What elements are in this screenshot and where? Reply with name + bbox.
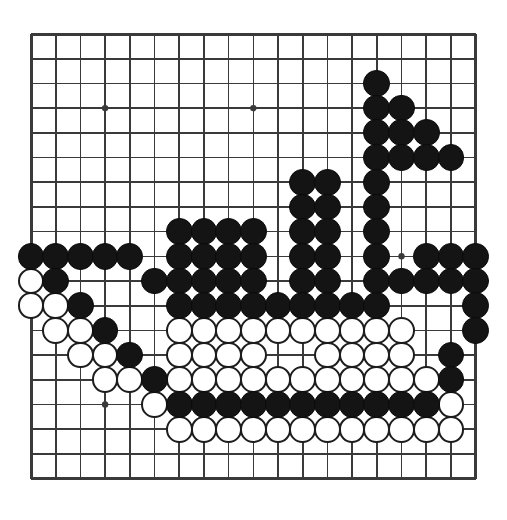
white-stone[interactable] [42, 292, 69, 319]
white-stone[interactable] [413, 416, 440, 443]
white-stone[interactable] [438, 391, 465, 418]
white-stone[interactable] [265, 416, 292, 443]
black-stone[interactable] [166, 218, 193, 245]
black-stone[interactable] [191, 243, 218, 270]
black-stone[interactable] [42, 268, 69, 295]
black-stone[interactable] [240, 243, 267, 270]
black-stone[interactable] [240, 292, 267, 319]
black-stone[interactable] [240, 218, 267, 245]
white-stone[interactable] [413, 366, 440, 393]
white-stone[interactable] [314, 366, 341, 393]
black-stone[interactable] [314, 292, 341, 319]
white-stone[interactable] [289, 416, 316, 443]
black-stone[interactable] [314, 194, 341, 221]
white-stone[interactable] [388, 342, 415, 369]
white-stone[interactable] [438, 416, 465, 443]
white-stone[interactable] [314, 317, 341, 344]
white-stone[interactable] [166, 342, 193, 369]
white-stone[interactable] [388, 366, 415, 393]
black-stone[interactable] [388, 268, 415, 295]
black-stone[interactable] [363, 194, 390, 221]
white-stone[interactable] [265, 317, 292, 344]
white-stone[interactable] [215, 342, 242, 369]
white-stone[interactable] [388, 317, 415, 344]
black-stone[interactable] [240, 391, 267, 418]
black-stone[interactable] [462, 268, 489, 295]
white-stone[interactable] [215, 317, 242, 344]
black-stone[interactable] [363, 169, 390, 196]
black-stone[interactable] [265, 292, 292, 319]
black-stone[interactable] [289, 243, 316, 270]
white-stone[interactable] [363, 416, 390, 443]
white-stone[interactable] [215, 416, 242, 443]
black-stone[interactable] [289, 194, 316, 221]
white-stone[interactable] [191, 416, 218, 443]
white-stone[interactable] [18, 292, 45, 319]
white-stone[interactable] [339, 317, 366, 344]
black-stone[interactable] [166, 292, 193, 319]
black-stone[interactable] [413, 391, 440, 418]
white-stone[interactable] [240, 416, 267, 443]
black-stone[interactable] [166, 268, 193, 295]
white-stone[interactable] [67, 342, 94, 369]
black-stone[interactable] [363, 243, 390, 270]
black-stone[interactable] [413, 268, 440, 295]
black-stone[interactable] [363, 144, 390, 171]
black-stone[interactable] [314, 243, 341, 270]
black-stone[interactable] [314, 218, 341, 245]
black-stone[interactable] [166, 391, 193, 418]
black-stone[interactable] [462, 243, 489, 270]
black-stone[interactable] [438, 366, 465, 393]
white-stone[interactable] [166, 416, 193, 443]
black-stone[interactable] [215, 391, 242, 418]
white-stone[interactable] [289, 317, 316, 344]
black-stone[interactable] [388, 144, 415, 171]
white-stone[interactable] [191, 317, 218, 344]
black-stone[interactable] [289, 169, 316, 196]
black-stone[interactable] [413, 243, 440, 270]
black-stone[interactable] [265, 391, 292, 418]
black-stone[interactable] [339, 391, 366, 418]
black-stone[interactable] [18, 243, 45, 270]
white-stone[interactable] [141, 391, 168, 418]
black-stone[interactable] [67, 292, 94, 319]
white-stone[interactable] [240, 317, 267, 344]
black-stone[interactable] [438, 144, 465, 171]
white-stone[interactable] [42, 317, 69, 344]
black-stone[interactable] [314, 268, 341, 295]
white-stone[interactable] [314, 416, 341, 443]
black-stone[interactable] [166, 243, 193, 270]
black-stone[interactable] [363, 292, 390, 319]
black-stone[interactable] [289, 292, 316, 319]
black-stone[interactable] [240, 268, 267, 295]
white-stone[interactable] [215, 366, 242, 393]
black-stone[interactable] [67, 243, 94, 270]
black-stone[interactable] [413, 119, 440, 146]
black-stone[interactable] [289, 391, 316, 418]
black-stone[interactable] [363, 391, 390, 418]
black-stone[interactable] [215, 268, 242, 295]
black-stone[interactable] [141, 268, 168, 295]
black-stone[interactable] [215, 218, 242, 245]
black-stone[interactable] [191, 218, 218, 245]
white-stone[interactable] [166, 366, 193, 393]
black-stone[interactable] [388, 95, 415, 122]
black-stone[interactable] [289, 268, 316, 295]
white-stone[interactable] [339, 416, 366, 443]
white-stone[interactable] [191, 366, 218, 393]
black-stone[interactable] [92, 317, 119, 344]
black-stone[interactable] [438, 243, 465, 270]
black-stone[interactable] [314, 169, 341, 196]
white-stone[interactable] [166, 317, 193, 344]
white-stone[interactable] [289, 366, 316, 393]
black-stone[interactable] [462, 317, 489, 344]
black-stone[interactable] [388, 119, 415, 146]
black-stone[interactable] [388, 391, 415, 418]
black-stone[interactable] [215, 243, 242, 270]
black-stone[interactable] [141, 366, 168, 393]
white-stone[interactable] [314, 342, 341, 369]
black-stone[interactable] [363, 70, 390, 97]
goban[interactable] [22, 25, 485, 494]
black-stone[interactable] [215, 292, 242, 319]
black-stone[interactable] [42, 243, 69, 270]
